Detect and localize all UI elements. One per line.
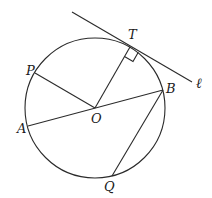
label-a: A (16, 121, 26, 136)
label-ell: ℓ (196, 75, 202, 91)
circle-geometry-diagram: T P A O B Q ℓ (0, 0, 212, 198)
label-q: Q (104, 179, 115, 194)
label-b: B (165, 81, 176, 96)
label-o: O (91, 111, 102, 126)
radius-op (35, 73, 95, 108)
label-t: T (128, 27, 138, 42)
tangent-line-l (72, 12, 192, 82)
label-p: P (25, 63, 35, 78)
